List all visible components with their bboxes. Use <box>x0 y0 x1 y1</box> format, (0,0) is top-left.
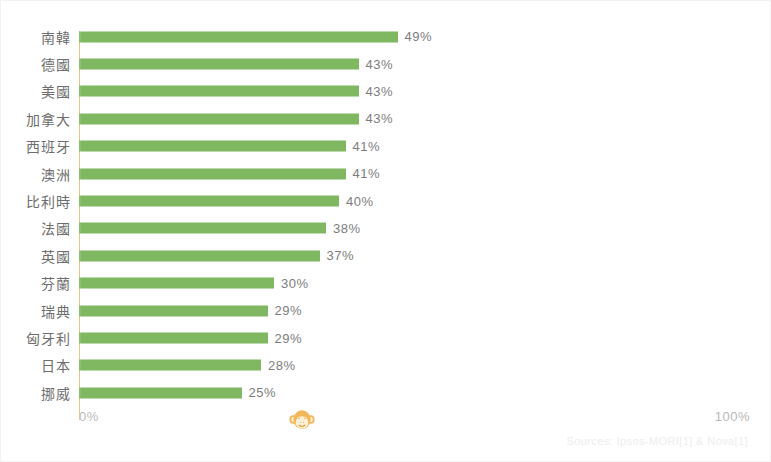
bar-chart-plot-area: 南韓 49% 德國 43% 美國 43% 加拿大 43% <box>79 23 729 408</box>
bar-track: 37% <box>79 250 729 261</box>
bar <box>79 360 261 371</box>
bar <box>79 278 274 289</box>
category-label: 比利時 <box>26 191 71 211</box>
bar-row: 英國 37% <box>79 242 729 269</box>
bar-track: 25% <box>79 387 729 398</box>
bar-value-label: 41% <box>353 166 381 181</box>
bar-track: 41% <box>79 141 729 152</box>
bar <box>79 223 326 234</box>
bar-value-label: 28% <box>268 358 296 373</box>
bar-row: 西班牙 41% <box>79 133 729 160</box>
bar-row: 日本 28% <box>79 352 729 379</box>
category-label: 瑞典 <box>41 301 71 321</box>
chart-page: 南韓 49% 德國 43% 美國 43% 加拿大 43% <box>0 0 771 462</box>
category-label: 芬蘭 <box>41 273 71 293</box>
category-label: 法國 <box>41 218 71 238</box>
source-attribution: Sources: Ipsos-MORI[1] & Nova[1] <box>566 435 748 447</box>
category-label: 英國 <box>41 246 71 266</box>
bar-row: 芬蘭 30% <box>79 270 729 297</box>
bar-value-label: 49% <box>405 29 433 44</box>
bar-value-label: 38% <box>333 221 361 236</box>
bar-row: 法國 38% <box>79 215 729 242</box>
category-label: 西班牙 <box>26 136 71 156</box>
bar-value-label: 30% <box>281 276 309 291</box>
bar-track: 49% <box>79 31 729 42</box>
category-label: 澳洲 <box>41 164 71 184</box>
category-label: 匈牙利 <box>26 328 71 348</box>
bar-track: 43% <box>79 113 729 124</box>
bar <box>79 250 320 261</box>
bar-track: 29% <box>79 333 729 344</box>
bar <box>79 305 268 316</box>
bar-track: 43% <box>79 86 729 97</box>
monkey-face-icon <box>289 408 315 432</box>
bar-track: 40% <box>79 196 729 207</box>
category-label: 德國 <box>41 54 71 74</box>
category-label: 南韓 <box>41 27 71 47</box>
axis-tick-max: 100% <box>715 409 750 424</box>
bar-row: 匈牙利 29% <box>79 324 729 351</box>
bar-track: 30% <box>79 278 729 289</box>
bar <box>79 141 346 152</box>
bar-value-label: 43% <box>366 84 394 99</box>
bar-track: 41% <box>79 168 729 179</box>
bar-value-label: 40% <box>346 194 374 209</box>
bar-row: 澳洲 41% <box>79 160 729 187</box>
category-label: 日本 <box>41 355 71 375</box>
bar-value-label: 29% <box>275 331 303 346</box>
axis-tick-min: 0% <box>79 409 99 424</box>
bar-row: 瑞典 29% <box>79 297 729 324</box>
bar-row: 加拿大 43% <box>79 105 729 132</box>
bar <box>79 59 359 70</box>
category-label: 加拿大 <box>26 109 71 129</box>
bar-track: 43% <box>79 59 729 70</box>
bar-value-label: 41% <box>353 139 381 154</box>
bar-row: 德國 43% <box>79 50 729 77</box>
bar <box>79 31 398 42</box>
bar-row: 比利時 40% <box>79 187 729 214</box>
bar <box>79 113 359 124</box>
bar-value-label: 43% <box>366 57 394 72</box>
bar-value-label: 29% <box>275 303 303 318</box>
bar <box>79 387 242 398</box>
category-label: 挪威 <box>41 383 71 403</box>
x-axis: 0% 100% <box>79 409 750 429</box>
bar-row: 挪威 25% <box>79 379 729 406</box>
bar-track: 38% <box>79 223 729 234</box>
bar-value-label: 25% <box>249 385 277 400</box>
bar-row: 美國 43% <box>79 78 729 105</box>
bar <box>79 168 346 179</box>
bar <box>79 196 339 207</box>
category-label: 美國 <box>41 81 71 101</box>
bar-value-label: 37% <box>327 248 355 263</box>
bar <box>79 333 268 344</box>
bar-row: 南韓 49% <box>79 23 729 50</box>
bar <box>79 86 359 97</box>
bar-track: 28% <box>79 360 729 371</box>
bar-track: 29% <box>79 305 729 316</box>
bar-value-label: 43% <box>366 111 394 126</box>
